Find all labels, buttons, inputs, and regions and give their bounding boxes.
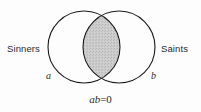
right-set-variable-label: b bbox=[151, 70, 156, 81]
equation-result: 0 bbox=[106, 93, 111, 105]
left-set-label: Sinners bbox=[7, 43, 40, 54]
equation-caption: ab=0 bbox=[0, 93, 201, 105]
right-set-label: Saints bbox=[161, 43, 188, 54]
equation-product: ab bbox=[89, 93, 100, 105]
venn-diagram-figure: Sinners Saints a b ab=0 bbox=[0, 0, 201, 112]
left-set-variable-label: a bbox=[46, 70, 51, 81]
